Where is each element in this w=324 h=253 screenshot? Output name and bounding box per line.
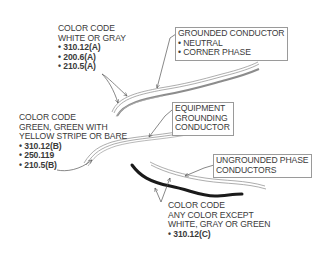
equipment-grounding-callout: EQUIPMENT GROUNDING CONDUCTOR	[172, 102, 234, 136]
grounded-conductor-callout: GROUNDED CONDUCTOR • NEUTRAL • CORNER PH…	[175, 27, 288, 61]
grounded-color-code-label: COLOR CODE WHITE OR GRAY • 310.12(A) • 2…	[58, 24, 126, 72]
equipment-callout-line-3: CONDUCTOR	[175, 123, 230, 133]
grounding-color-code-label: COLOR CODE GREEN, GREEN WITH YELLOW STRI…	[19, 113, 127, 171]
ungrounded-callout-line-2: CONDUCTORS	[216, 166, 308, 176]
ungrounded-conductors-callout: UNGROUNDED PHASE CONDUCTORS	[213, 154, 312, 178]
grounded-callout-item-2: • CORNER PHASE	[178, 48, 284, 58]
grounding-ref-3: • 210.5(B)	[19, 161, 127, 171]
ungrounded-color-code-label: COLOR CODE ANY COLOR EXCEPT WHITE, GRAY …	[168, 201, 270, 239]
grounded-ref-3: • 210.5(A)	[58, 62, 126, 72]
ungrounded-ref-1: • 310.12(C)	[168, 230, 270, 240]
diagram-canvas: COLOR CODE WHITE OR GRAY • 310.12(A) • 2…	[0, 0, 324, 253]
